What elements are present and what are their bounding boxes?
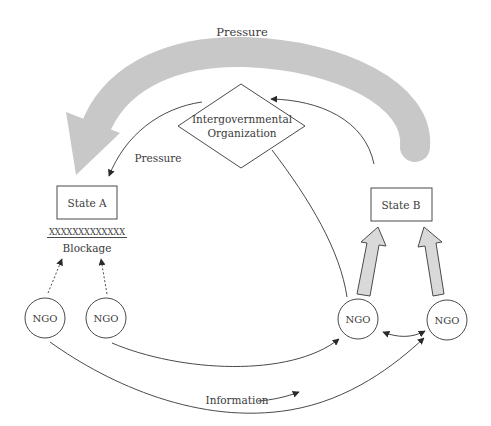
information-label: Information bbox=[205, 394, 268, 406]
igo-to-state-a-arrow bbox=[109, 102, 202, 176]
ngo-1-label: NGO bbox=[33, 313, 58, 324]
ngo-2-label: NGO bbox=[94, 313, 119, 324]
ngo-4: NGO bbox=[427, 300, 467, 340]
blockage-marks: XXXXXXXXXXXXX bbox=[49, 226, 126, 237]
ngo-1: NGO bbox=[25, 298, 65, 338]
state-a-box: State A bbox=[57, 186, 117, 219]
ngo3-ngo4-exchange-arrow bbox=[383, 331, 425, 336]
blockage-label: Blockage bbox=[63, 242, 112, 254]
ngo2-to-ngo3-arrow bbox=[112, 339, 339, 367]
igo-label-line2: Organization bbox=[207, 127, 276, 139]
state-b-label: State B bbox=[381, 199, 420, 211]
igo-diamond: Intergovernmental Organization bbox=[178, 84, 305, 168]
igo-to-ngo-line bbox=[272, 150, 347, 297]
ngo-3: NGO bbox=[338, 299, 378, 339]
ngo1-blocked-arrow bbox=[48, 259, 62, 293]
boomerang-pattern-diagram: Pressure Intergovernmental Organization … bbox=[0, 0, 491, 426]
blockage: XXXXXXXXXXXXX Blockage bbox=[47, 226, 127, 254]
state-a-label: State A bbox=[67, 197, 106, 209]
igo-label-line1: Intergovernmental bbox=[192, 113, 293, 125]
ngo3-to-state-b-block-arrow bbox=[357, 227, 386, 296]
state-b-box: State B bbox=[371, 188, 432, 221]
ngo-2: NGO bbox=[86, 298, 126, 338]
top-pressure-label: Pressure bbox=[216, 25, 268, 39]
ngo-4-label: NGO bbox=[435, 315, 460, 326]
ngo-3-label: NGO bbox=[346, 314, 371, 325]
ngo4-to-state-b-block-arrow bbox=[418, 227, 444, 296]
igo-pressure-label: Pressure bbox=[134, 152, 181, 164]
ngo2-blocked-arrow bbox=[101, 259, 107, 294]
